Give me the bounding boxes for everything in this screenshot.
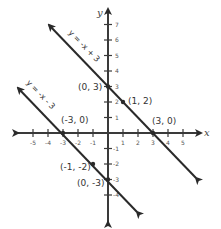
y-axis-label: y [96,7,103,18]
point-label-neg3-0: (-3, 0) [61,115,88,125]
point-label-1-2: (1, 2) [128,96,152,106]
point-label-3-0: (3, 0) [152,116,176,126]
point-label-neg1-neg2: (-1, -2) [60,162,91,172]
y-tick-label: 5 [115,52,119,59]
y-tick-label: 6 [115,36,119,43]
coordinate-plane: -5 -4 -3 -2 -1 1 2 3 4 5 7 6 5 4 3 2 1 -… [0,0,221,229]
y-tick-label: 4 [115,67,119,74]
x-axis-label: x [204,127,210,138]
x-tick-label: -5 [30,139,36,146]
x-tick-label: 1 [121,139,125,146]
y-tick-label: 2 [115,98,119,105]
x-tick-label: 3 [151,139,155,146]
y-tick-label: 7 [115,21,119,28]
x-tick-label: -3 [60,139,66,146]
y-tick-label: -2 [113,160,119,167]
x-tick-label: 4 [166,139,170,146]
line1-equation-label: y = -x + 3 [67,28,102,64]
point-3-0 [151,131,155,135]
y-tick-labels: 7 6 5 4 3 2 1 -1 -2 -3 -4 [113,21,119,199]
y-tick-label: 3 [115,83,119,90]
point-0-3 [106,84,110,88]
point-neg1-neg2 [91,162,95,166]
point-0-neg3 [106,177,110,181]
point-label-0-3: (0, 3) [78,82,102,92]
x-tick-label: -2 [75,139,81,146]
point-label-0-neg3: (0, -3) [77,178,104,188]
y-tick-label: -3 [113,176,119,183]
y-tick-label: 1 [115,114,119,121]
point-1-2 [121,100,125,104]
x-tick-label: -1 [90,139,96,146]
point-neg3-0 [61,131,65,135]
x-tick-label: 2 [136,139,140,146]
x-tick-label: -4 [45,139,51,146]
x-tick-label: 5 [181,139,185,146]
line2-equation-label: y = -x - 3 [25,78,57,111]
line-y-neg-x-minus-3 [18,88,137,212]
y-tick-label: -1 [113,145,119,152]
